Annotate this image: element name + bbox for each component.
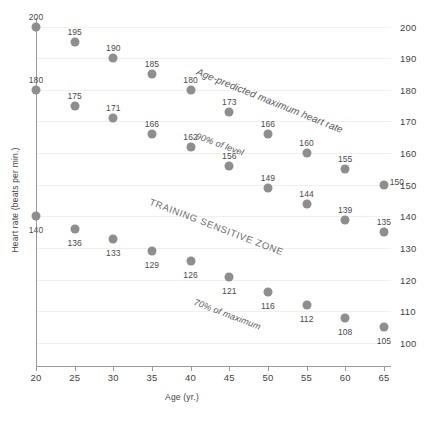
data-point [302,199,311,208]
data-point-label: 126 [183,270,197,280]
x-axis-tick-label: 50 [262,372,273,383]
data-point [147,70,156,79]
data-point [225,272,234,281]
data-point [263,130,272,139]
data-point-label: 129 [145,260,159,270]
x-axis-tick-label: 20 [31,372,42,383]
data-point-label: 108 [338,327,352,337]
data-point [263,288,272,297]
y-axis-spine [36,18,37,366]
data-point [70,225,79,234]
data-point-label: 171 [106,103,120,113]
gridline [36,343,391,344]
data-point-label: 175 [67,91,81,101]
data-point-label: 190 [106,43,120,53]
data-point [341,215,350,224]
data-point-label: 144 [299,189,313,199]
data-point [379,323,388,332]
x-axis-tick [345,366,346,371]
data-point [341,164,350,173]
x-axis-tick-label: 35 [146,372,157,383]
data-point-label: 135 [377,217,391,227]
x-axis-tick [152,366,153,371]
x-axis-tick [36,366,37,371]
x-axis-tick [268,366,269,371]
x-axis-tick-label: 55 [301,372,312,383]
y-axis-tick-label: 100 [400,338,416,349]
data-point [186,256,195,265]
gridline [36,185,391,186]
data-point-label: 155 [338,154,352,164]
data-point [302,149,311,158]
data-point [32,85,41,94]
data-point [147,130,156,139]
y-axis-tick-label: 200 [400,21,416,32]
x-axis-tick-label: 40 [185,372,196,383]
gridline [36,90,391,91]
data-point-label: 166 [261,119,275,129]
data-point [379,180,388,189]
data-point-label: 149 [261,173,275,183]
x-axis-tick [75,366,76,371]
y-axis-tick-label: 190 [400,53,416,64]
data-point [225,108,234,117]
data-point-label: 136 [67,238,81,248]
data-point-label: 112 [300,314,314,324]
x-axis-tick [229,366,230,371]
x-axis-tick-label: 60 [340,372,351,383]
data-point-label: 121 [222,286,236,296]
y-axis-tick-label: 110 [400,306,416,317]
y-axis-title: Heart rate (beats per min.) [10,120,20,280]
y-axis-tick-label: 150 [400,179,416,190]
x-axis-tick [113,366,114,371]
data-point-label: 160 [299,138,313,148]
data-point [379,228,388,237]
data-point-label: 180 [29,75,43,85]
data-point-label: 133 [106,248,120,258]
gridline [36,248,391,249]
x-axis-tick [384,366,385,371]
data-point [186,142,195,151]
gridline [36,58,391,59]
gridline [36,280,391,281]
x-axis-tick-label: 30 [108,372,119,383]
data-point-label: 166 [145,119,159,129]
data-point [263,183,272,192]
data-point [109,54,118,63]
data-point-label: 139 [338,205,352,215]
gridline [36,216,391,217]
gridline [36,27,391,28]
data-point [32,212,41,221]
data-point [186,85,195,94]
data-point [147,247,156,256]
data-point-label: 116 [261,301,275,311]
y-axis-tick-label: 170 [400,116,416,127]
x-axis-tick-label: 25 [69,372,80,383]
data-point [32,22,41,31]
x-axis-spine [36,366,391,367]
plot-area: 2001951901851801731661601551501801751711… [0,0,439,427]
y-axis-tick-label: 120 [400,274,416,285]
data-point [302,301,311,310]
data-point-label: 105 [377,336,391,346]
x-axis-tick-label: 65 [378,372,389,383]
data-point-label: 195 [67,27,81,37]
x-axis-tick [307,366,308,371]
y-axis-tick-label: 160 [400,148,416,159]
data-point [341,313,350,322]
data-point-label: 173 [222,97,236,107]
data-point-label: 200 [29,12,43,22]
data-point-label: 140 [29,225,43,235]
heart-rate-training-zone-chart: 2001951901851801731661601551501801751711… [0,0,439,427]
data-point-label: 185 [145,59,159,69]
data-point [109,114,118,123]
data-point [109,234,118,243]
data-point [70,38,79,47]
x-axis-tick-label: 45 [224,372,235,383]
y-axis-tick-label: 140 [400,211,416,222]
data-point [70,101,79,110]
y-axis-tick-label: 180 [400,84,416,95]
x-axis-title: Age (yr.) [165,392,199,402]
x-axis-tick [191,366,192,371]
data-point [225,161,234,170]
